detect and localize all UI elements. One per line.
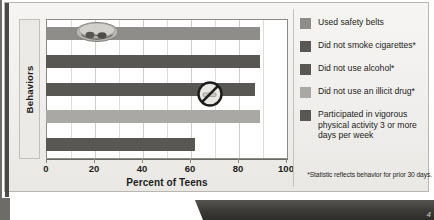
scanned-page: Behaviors 020406080100 Percent of Teens …: [0, 0, 434, 220]
x-tick-label: 20: [74, 163, 114, 174]
bar: [46, 55, 260, 68]
x-tick-label: 40: [122, 163, 162, 174]
legend-item: Did not use an illicit drug*: [300, 86, 430, 98]
y-axis-title: Behaviors: [24, 65, 35, 113]
legend-label: Participated in vigorous physical activi…: [318, 109, 430, 141]
scan-edge-shadow: [0, 0, 2, 220]
bar: [46, 110, 260, 123]
legend-label: Did not use alcohol*: [318, 63, 394, 74]
legend-item: Did not smoke cigarettes*: [300, 40, 430, 52]
y-axis-label: Behaviors: [19, 19, 40, 159]
no-smoking-icon: [197, 81, 223, 107]
x-axis-title: Percent of Teens: [46, 177, 288, 188]
legend-label: Did not use an illicit drug*: [318, 86, 415, 97]
banner-mark: 4: [427, 210, 431, 219]
legend: Used safety beltsDid not smoke cigarette…: [300, 17, 430, 152]
x-tick-label: 60: [170, 163, 210, 174]
sunglasses-icon: [71, 21, 123, 43]
legend-swatch: [300, 64, 311, 75]
legend-divider: [293, 9, 294, 187]
x-tick-label: 0: [26, 163, 66, 174]
legend-swatch: [300, 18, 311, 29]
bottom-left-edge: [0, 198, 10, 220]
legend-item: Did not use alcohol*: [300, 63, 430, 75]
legend-label: Did not smoke cigarettes*: [318, 40, 416, 51]
footnote: *Statistic reflects behavior for prior 3…: [293, 171, 432, 178]
legend-swatch: [300, 87, 311, 98]
legend-swatch: [300, 110, 311, 121]
x-axis-line: [46, 159, 288, 160]
chart-panel: Behaviors 020406080100 Percent of Teens …: [4, 2, 429, 192]
bar: [46, 138, 195, 151]
legend-item: Participated in vigorous physical activi…: [300, 109, 430, 141]
legend-swatch: [300, 41, 311, 52]
panel-left-gutter: [5, 3, 9, 197]
bottom-banner: 4: [187, 200, 434, 220]
bar: [46, 83, 255, 96]
x-tick-label: 80: [218, 163, 258, 174]
legend-label: Used safety belts: [318, 17, 384, 28]
legend-item: Used safety belts: [300, 17, 430, 29]
